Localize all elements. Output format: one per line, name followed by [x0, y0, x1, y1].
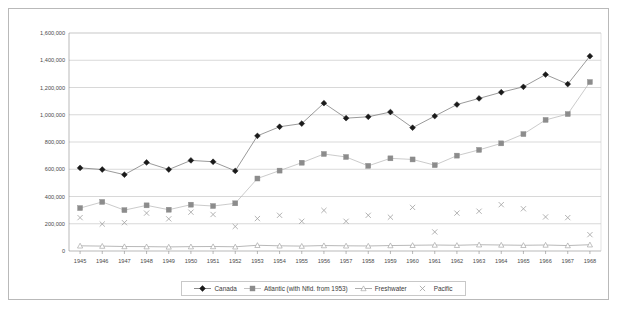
data-point-square — [344, 154, 349, 159]
data-point-square — [100, 199, 105, 204]
data-point-cross — [565, 215, 570, 220]
data-point-diamond — [255, 133, 261, 139]
chart-legend: CanadaAtlantic (with Nfld. from 1953)Fre… — [181, 281, 466, 296]
data-point-square — [454, 153, 459, 158]
x-axis-tick-label: 1951 — [207, 258, 219, 264]
x-axis-tick-label: 1962 — [451, 258, 463, 264]
x-axis-tick-label: 1955 — [296, 258, 308, 264]
data-point-square — [299, 160, 304, 165]
data-point-square — [188, 202, 193, 207]
data-point-diamond — [476, 96, 482, 102]
data-point-square — [144, 203, 149, 208]
data-point-square — [521, 132, 526, 137]
data-point-cross — [233, 224, 238, 229]
data-point-square — [255, 176, 260, 181]
series-freshwater — [77, 242, 592, 249]
legend-item-pacific[interactable]: Pacific — [414, 284, 453, 293]
x-axis-tick-label: 1964 — [495, 258, 507, 264]
legend-item-freshwater[interactable]: Freshwater — [355, 284, 407, 293]
x-axis-tick-label: 1952 — [229, 258, 241, 264]
data-point-cross — [410, 205, 415, 210]
y-axis-tick-label: 1,400,000 — [40, 57, 65, 63]
x-axis-tick-label: 1968 — [584, 258, 596, 264]
data-point-cross — [388, 215, 393, 220]
data-point-cross — [543, 214, 548, 219]
data-point-cross — [255, 216, 260, 221]
data-point-square — [166, 207, 171, 212]
y-axis-tick-label: 200,000 — [45, 221, 65, 227]
plot-area: 0200,000400,000600,000800,0001,000,0001,… — [9, 9, 610, 301]
series-canada — [77, 53, 593, 177]
x-axis-tick-label: 1947 — [118, 258, 130, 264]
data-point-cross — [366, 213, 371, 218]
data-point-square — [499, 141, 504, 146]
y-axis-tick-label: 1,000,000 — [40, 112, 65, 118]
legend-item-atlantic[interactable]: Atlantic (with Nfld. from 1953) — [244, 284, 348, 293]
x-axis-tick-label: 1960 — [406, 258, 418, 264]
x-axis-tick-label: 1956 — [318, 258, 330, 264]
data-point-diamond — [543, 72, 549, 78]
data-point-diamond — [122, 172, 128, 178]
x-axis-tick-label: 1946 — [96, 258, 108, 264]
legend-item-canada[interactable]: Canada — [194, 284, 236, 293]
x-axis-tick-label: 1961 — [429, 258, 441, 264]
x-axis-tick-label: 1950 — [185, 258, 197, 264]
x-axis-tick-label: 1953 — [251, 258, 263, 264]
x-axis-tick-label: 1965 — [517, 258, 529, 264]
legend-marker-square-icon — [244, 284, 261, 293]
data-point-cross — [321, 208, 326, 213]
x-axis-tick-label: 1945 — [74, 258, 86, 264]
data-point-cross — [299, 219, 304, 224]
data-point-diamond — [144, 160, 150, 166]
data-point-square — [122, 208, 127, 213]
data-point-cross — [521, 206, 526, 211]
x-axis-tick-label: 1959 — [384, 258, 396, 264]
data-point-diamond — [232, 168, 238, 174]
y-axis-tick-label: 800,000 — [45, 139, 65, 145]
data-point-diamond — [454, 102, 460, 108]
legend-label: Atlantic (with Nfld. from 1953) — [264, 285, 348, 292]
data-point-cross — [100, 221, 105, 226]
y-axis-tick-label: 0 — [62, 248, 65, 254]
data-point-square — [410, 157, 415, 162]
data-point-diamond — [388, 109, 394, 115]
legend-marker-triangle-icon — [355, 284, 372, 293]
data-point-square — [587, 80, 592, 85]
x-axis-tick-label: 1957 — [340, 258, 352, 264]
data-point-square — [543, 117, 548, 122]
data-point-diamond — [521, 84, 527, 90]
legend-label: Pacific — [434, 285, 453, 292]
data-point-diamond — [77, 165, 83, 171]
legend-label: Canada — [214, 285, 236, 292]
data-point-cross — [454, 211, 459, 216]
data-point-square — [277, 168, 282, 173]
line-chart: 0200,000400,000600,000800,0001,000,0001,… — [9, 9, 610, 301]
data-point-cross — [432, 229, 437, 234]
data-point-square — [477, 147, 482, 152]
data-point-cross — [343, 219, 348, 224]
legend-label: Freshwater — [375, 285, 407, 292]
data-point-diamond — [498, 89, 504, 95]
data-point-square — [78, 206, 83, 211]
data-point-diamond — [166, 167, 172, 173]
data-point-cross — [188, 210, 193, 215]
legend-marker-cross-icon — [414, 284, 431, 293]
y-axis-tick-label: 600,000 — [45, 166, 65, 172]
data-point-diamond — [99, 167, 105, 173]
x-axis-tick-label: 1958 — [362, 258, 374, 264]
data-point-cross — [587, 232, 592, 237]
chart-frame: 0200,000400,000600,000800,0001,000,0001,… — [8, 8, 609, 300]
data-point-diamond — [410, 125, 416, 131]
data-point-cross — [77, 215, 82, 220]
data-point-diamond — [277, 124, 283, 130]
series-atlantic — [78, 80, 593, 213]
data-point-cross — [122, 220, 127, 225]
data-point-square — [432, 163, 437, 168]
data-point-diamond — [343, 115, 349, 121]
data-point-cross — [144, 211, 149, 216]
data-point-cross — [277, 213, 282, 218]
y-axis-tick-label: 1,600,000 — [40, 30, 65, 36]
data-point-cross — [210, 212, 215, 217]
data-point-square — [250, 286, 255, 291]
data-point-square — [211, 204, 216, 209]
